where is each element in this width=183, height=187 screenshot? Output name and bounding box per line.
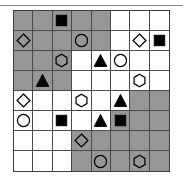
grid-cell-r1-c4[interactable] [72, 11, 91, 31]
grid-cell-r3-c3[interactable] [53, 51, 72, 71]
grid-cell-r2-c6[interactable] [111, 31, 130, 51]
circle-icon [92, 152, 111, 171]
grid-cell-r1-c3[interactable] [53, 11, 72, 31]
diamond-icon [14, 91, 33, 110]
grid-cell-r7-c8[interactable] [150, 131, 169, 151]
grid-cell-r6-c2[interactable] [33, 111, 52, 131]
grid-cell-r2-c8[interactable] [150, 31, 169, 51]
grid-cell-r4-c4[interactable] [72, 71, 91, 91]
grid-cell-r7-c6[interactable] [111, 131, 130, 151]
grid-cell-r8-c2[interactable] [33, 151, 52, 171]
grid-cell-r4-c7[interactable] [130, 71, 149, 91]
grid-cell-r4-c2[interactable] [33, 71, 52, 91]
grid-cell-r8-c3[interactable] [53, 151, 72, 171]
grid-cell-r5-c8[interactable] [150, 91, 169, 111]
grid-cell-r8-c8[interactable] [150, 151, 169, 171]
grid-cell-r1-c5[interactable] [92, 11, 111, 31]
square-icon [53, 11, 72, 30]
grid-cell-r5-c5[interactable] [92, 91, 111, 111]
grid-cell-r8-c7[interactable] [130, 151, 149, 171]
grid-cell-r5-c4[interactable] [72, 91, 91, 111]
grid-cell-r7-c3[interactable] [53, 131, 72, 151]
grid-cell-r2-c3[interactable] [53, 31, 72, 51]
hexagon-icon [53, 51, 72, 70]
circle-icon [14, 111, 33, 130]
grid-cell-r8-c1[interactable] [14, 151, 33, 171]
grid-cell-r2-c7[interactable] [130, 31, 149, 51]
hexagon-icon [130, 71, 149, 90]
grid-cell-r5-c7[interactable] [130, 91, 149, 111]
grid-cell-r2-c4[interactable] [72, 31, 91, 51]
grid-cell-r6-c1[interactable] [14, 111, 33, 131]
grid-cell-r8-c4[interactable] [72, 151, 91, 171]
shape-grid [13, 10, 170, 172]
grid-cell-r4-c6[interactable] [111, 71, 130, 91]
grid-cell-r1-c2[interactable] [33, 11, 52, 31]
grid-cell-r6-c8[interactable] [150, 111, 169, 131]
grid-cell-r7-c4[interactable] [72, 131, 91, 151]
grid-cell-r3-c2[interactable] [33, 51, 52, 71]
grid-cell-r5-c1[interactable] [14, 91, 33, 111]
diamond-icon [130, 31, 149, 50]
grid-cell-r1-c8[interactable] [150, 11, 169, 31]
grid-cell-r3-c4[interactable] [72, 51, 91, 71]
grid-cell-r1-c6[interactable] [111, 11, 130, 31]
grid-cell-r4-c1[interactable] [14, 71, 33, 91]
grid-cell-r8-c6[interactable] [111, 151, 130, 171]
diamond-icon [14, 31, 33, 50]
grid-cell-r6-c3[interactable] [53, 111, 72, 131]
grid-cell-r3-c6[interactable] [111, 51, 130, 71]
grid-cell-r3-c8[interactable] [150, 51, 169, 71]
grid-cell-r5-c6[interactable] [111, 91, 130, 111]
grid-cell-r7-c2[interactable] [33, 131, 52, 151]
hexagon-icon [72, 91, 91, 110]
grid-cell-r3-c5[interactable] [92, 51, 111, 71]
hexagon-icon [130, 152, 149, 171]
square-icon [150, 31, 169, 50]
grid-cell-r4-c3[interactable] [53, 71, 72, 91]
square-icon [111, 111, 130, 130]
grid-cell-r7-c1[interactable] [14, 131, 33, 151]
triangle-icon [111, 91, 130, 110]
triangle-icon [92, 51, 111, 70]
grid-cell-r5-c3[interactable] [53, 91, 72, 111]
grid-cell-r7-c7[interactable] [130, 131, 149, 151]
grid-cell-r4-c5[interactable] [92, 71, 111, 91]
triangle-icon [92, 111, 111, 130]
diamond-icon [72, 131, 91, 150]
grid-cell-r6-c5[interactable] [92, 111, 111, 131]
triangle-icon [33, 71, 52, 90]
grid-cell-r2-c5[interactable] [92, 31, 111, 51]
circle-icon [72, 31, 91, 50]
grid-cell-r7-c5[interactable] [92, 131, 111, 151]
grid-cell-r5-c2[interactable] [33, 91, 52, 111]
grid-cell-r6-c6[interactable] [111, 111, 130, 131]
top-divider-rule [0, 5, 183, 6]
grid-cell-r8-c5[interactable] [92, 151, 111, 171]
grid-cell-r2-c2[interactable] [33, 31, 52, 51]
grid-cell-r4-c8[interactable] [150, 71, 169, 91]
grid-cell-r6-c4[interactable] [72, 111, 91, 131]
grid-cell-r6-c7[interactable] [130, 111, 149, 131]
grid-cell-r1-c7[interactable] [130, 11, 149, 31]
square-icon [53, 111, 72, 130]
grid-cell-r1-c1[interactable] [14, 11, 33, 31]
grid-cell-r3-c1[interactable] [14, 51, 33, 71]
circle-icon [111, 51, 130, 70]
grid-cell-r3-c7[interactable] [130, 51, 149, 71]
grid-cell-r2-c1[interactable] [14, 31, 33, 51]
